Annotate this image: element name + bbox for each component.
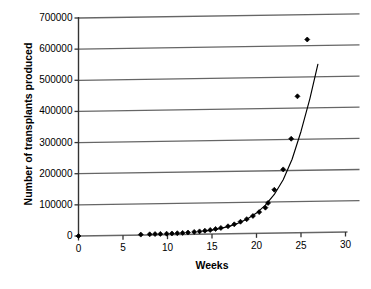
gridlines-group xyxy=(79,14,360,205)
y-tick-label-700000: 700000 xyxy=(11,13,73,23)
x-axis-line xyxy=(79,232,348,236)
y-tick-label-300000: 300000 xyxy=(11,138,73,148)
data-point-marker xyxy=(218,225,223,230)
gridline-400000 xyxy=(79,107,360,111)
data-points-group xyxy=(76,37,310,239)
x-tick-label-0: 0 xyxy=(64,244,94,254)
data-point-marker xyxy=(263,205,268,210)
x-tick-label-5: 5 xyxy=(108,243,138,253)
x-tick-label-15: 15 xyxy=(197,242,227,252)
x-tick-label-25: 25 xyxy=(286,241,316,251)
gridline-500000 xyxy=(79,76,360,80)
gridline-300000 xyxy=(79,138,360,142)
y-tick-label-0: 0 xyxy=(11,231,73,241)
x-axis-title: Weeks xyxy=(78,259,346,271)
data-point-marker xyxy=(295,94,300,99)
data-point-marker xyxy=(138,232,143,237)
y-tick-label-400000: 400000 xyxy=(11,106,73,116)
y-tick-label-500000: 500000 xyxy=(11,75,73,85)
data-point-marker xyxy=(76,234,81,239)
data-point-marker xyxy=(305,37,310,42)
data-point-marker xyxy=(153,232,158,237)
chart-figure: 0100000200000300000400000500000600000700… xyxy=(0,0,371,289)
x-tick-label-10: 10 xyxy=(153,243,183,253)
y-tick-label-600000: 600000 xyxy=(11,44,73,54)
gridline-600000 xyxy=(79,45,360,49)
y-axis-title: Number of transplants produced xyxy=(22,34,34,214)
data-point-marker xyxy=(202,228,207,233)
fitted-curve-line xyxy=(203,64,318,231)
data-point-marker xyxy=(158,231,163,236)
data-point-marker xyxy=(164,231,169,236)
data-point-marker xyxy=(213,226,218,231)
x-tick-label-30: 30 xyxy=(331,240,361,250)
fitted-curve-group xyxy=(203,64,318,231)
data-point-marker xyxy=(226,224,231,229)
y-tick-label-100000: 100000 xyxy=(11,200,73,210)
gridline-200000 xyxy=(79,170,360,174)
data-point-marker xyxy=(197,229,202,234)
data-point-marker xyxy=(147,232,152,237)
data-point-marker xyxy=(289,136,294,141)
y-tick-label-200000: 200000 xyxy=(11,169,73,179)
data-point-marker xyxy=(244,217,249,222)
gridline-100000 xyxy=(79,201,360,205)
data-point-marker xyxy=(208,227,213,232)
gridline-700000 xyxy=(79,14,360,18)
x-tick-label-20: 20 xyxy=(242,241,272,251)
data-point-marker xyxy=(257,210,262,215)
data-point-marker xyxy=(232,222,237,227)
